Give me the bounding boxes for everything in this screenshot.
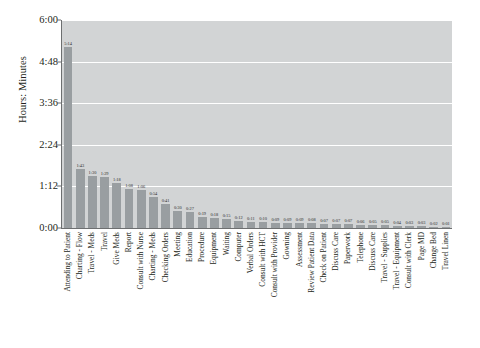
bar-slot[interactable]: 0:11: [245, 20, 257, 228]
x-tick-label: Check on Patient: [320, 232, 328, 283]
bar-slot[interactable]: 0:09: [281, 20, 293, 228]
x-tick-label: Checking Orders: [162, 232, 170, 282]
bar-slot[interactable]: 0:41: [160, 20, 172, 228]
bar[interactable]: [125, 189, 134, 228]
bar[interactable]: [234, 221, 243, 228]
bar-slot[interactable]: 1:18: [111, 20, 123, 228]
x-tick-label: Travel Linen: [442, 232, 450, 270]
bar-value-label: 0:07: [345, 218, 353, 223]
bar-slot[interactable]: 1:29: [99, 20, 111, 228]
x-tick-label: Travel - Meds: [88, 232, 96, 274]
bar-slot[interactable]: 0:02: [428, 20, 440, 228]
bar[interactable]: [112, 183, 121, 228]
y-tick-mark: [57, 228, 61, 229]
bar-slot[interactable]: 0:03: [415, 20, 427, 228]
bar-slot[interactable]: 0:07: [330, 20, 342, 228]
x-label-slot: Charting - Flow: [74, 230, 86, 348]
x-label-slot: Check on Patient: [318, 230, 330, 348]
bar-value-label: 0:09: [296, 217, 304, 222]
x-tick-label: Discuss Care: [369, 232, 377, 271]
y-tick-label: 0:00: [39, 223, 58, 233]
bar[interactable]: [64, 47, 73, 228]
bar-slot[interactable]: 0:03: [403, 20, 415, 228]
bar-value-label: 0:09: [284, 217, 292, 222]
x-tick-label: Consult with HCT: [259, 232, 267, 287]
bar-value-label: 0:19: [198, 211, 206, 216]
bar[interactable]: [149, 197, 158, 228]
y-tick-mark: [57, 61, 61, 62]
bars-container: 5:141:431:301:291:181:081:060:540:410:30…: [62, 20, 452, 228]
bar-slot[interactable]: 1:06: [135, 20, 147, 228]
bar-slot[interactable]: 1:08: [123, 20, 135, 228]
bar-slot[interactable]: 1:43: [74, 20, 86, 228]
bar-slot[interactable]: 0:08: [306, 20, 318, 228]
bar-slot[interactable]: 0:19: [196, 20, 208, 228]
y-tick-label: 1:12: [39, 181, 58, 191]
bar-slot[interactable]: 0:10: [257, 20, 269, 228]
bar-value-label: 0:18: [210, 212, 218, 217]
x-label-slot: Consult with HCT: [257, 230, 269, 348]
x-tick-label: Telephone: [357, 232, 365, 263]
bar-value-label: 0:41: [162, 198, 170, 203]
x-label-slot: Report: [123, 230, 135, 348]
bar[interactable]: [210, 218, 219, 228]
bar[interactable]: [173, 211, 182, 228]
x-tick-label: Verbal Orders: [247, 232, 255, 273]
bar-slot[interactable]: 0:09: [269, 20, 281, 228]
bar-slot[interactable]: 0:30: [172, 20, 184, 228]
bar-slot[interactable]: 0:07: [342, 20, 354, 228]
bar[interactable]: [198, 217, 207, 228]
bar-slot[interactable]: 0:27: [184, 20, 196, 228]
x-label-slot: Charting - Meds: [147, 230, 159, 348]
bar-slot[interactable]: 0:05: [379, 20, 391, 228]
x-tick-label: Paperwork: [344, 232, 352, 264]
y-tick-label: 6:00: [39, 15, 58, 25]
x-label-slot: Consult with Nurse: [135, 230, 147, 348]
x-tick-label: Equipment: [210, 232, 218, 264]
bar-slot[interactable]: 5:14: [62, 20, 74, 228]
bar-slot[interactable]: 0:15: [220, 20, 232, 228]
bar-slot[interactable]: 0:04: [391, 20, 403, 228]
bar-slot[interactable]: 1:30: [86, 20, 98, 228]
bar-value-label: 0:07: [332, 218, 340, 223]
bar-slot[interactable]: 0:06: [355, 20, 367, 228]
bar[interactable]: [186, 212, 195, 228]
x-label-slot: Education: [184, 230, 196, 348]
x-label-slot: Telephone: [355, 230, 367, 348]
bar-value-label: 0:08: [308, 217, 316, 222]
bar[interactable]: [88, 176, 97, 228]
bar-slot[interactable]: 0:01: [440, 20, 452, 228]
x-tick-label: Discuss Care: [332, 232, 340, 271]
bar-slot[interactable]: 0:09: [294, 20, 306, 228]
y-axis-tick-labels: 6:004:483:362:241:120:00: [22, 0, 58, 348]
x-label-slot: Checking Orders: [160, 230, 172, 348]
bar-slot[interactable]: 0:12: [233, 20, 245, 228]
bar-value-label: 1:06: [137, 184, 145, 189]
bar-slot[interactable]: 0:18: [208, 20, 220, 228]
bar-value-label: 1:29: [101, 171, 109, 176]
plot-area: 5:141:431:301:291:181:081:060:540:410:30…: [62, 20, 452, 228]
bar[interactable]: [76, 169, 85, 229]
x-tick-label: Attending to Patient: [64, 232, 72, 292]
bar[interactable]: [100, 177, 109, 228]
x-tick-label: Education: [186, 232, 194, 262]
bar-slot[interactable]: 0:05: [367, 20, 379, 228]
x-label-slot: Meeting: [172, 230, 184, 348]
x-label-slot: Travel Linen: [440, 230, 452, 348]
bar-slot[interactable]: 0:07: [318, 20, 330, 228]
x-label-slot: Discuss Care: [367, 230, 379, 348]
bar-slot[interactable]: 0:54: [147, 20, 159, 228]
bar-value-label: 0:05: [369, 219, 377, 224]
y-tick-label: 4:48: [39, 57, 58, 67]
bar[interactable]: [161, 204, 170, 228]
x-tick-label: Gowning: [283, 232, 291, 260]
bar-value-label: 1:18: [113, 177, 121, 182]
x-tick-label: Computer: [235, 232, 243, 262]
y-tick-mark: [57, 186, 61, 187]
bar-value-label: 0:01: [442, 221, 450, 226]
bar[interactable]: [137, 190, 146, 228]
bar-value-label: 0:09: [271, 217, 279, 222]
bar[interactable]: [222, 219, 231, 228]
bar-value-label: 0:11: [247, 216, 255, 221]
x-tick-label: Travel: [101, 232, 109, 251]
